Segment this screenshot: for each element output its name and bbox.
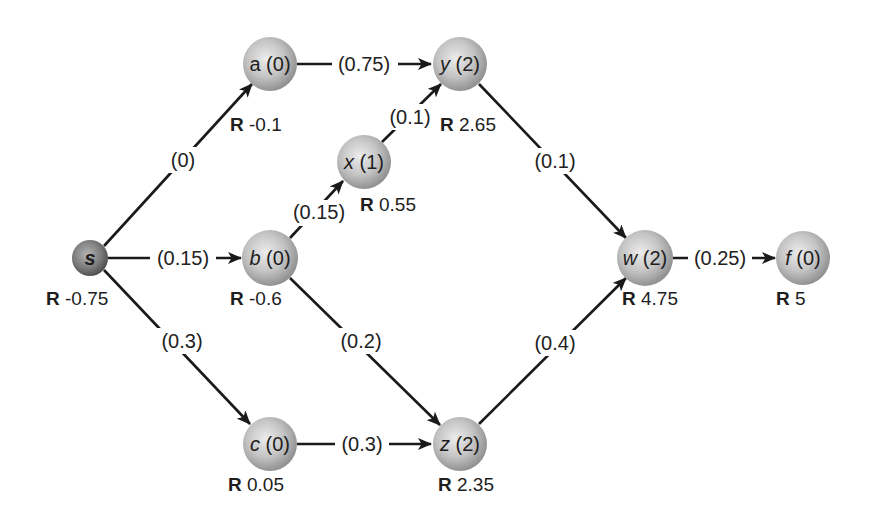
r-key: R — [440, 114, 454, 135]
node-name: s — [84, 247, 95, 269]
edge-s-b: (0.15) — [108, 245, 241, 271]
r-value: 4.75 — [641, 288, 678, 309]
edge-label: (0.15) — [157, 247, 209, 269]
r-value: 5 — [795, 288, 806, 309]
node-s: s R -0.75 — [46, 240, 108, 309]
edge-b-x: (0.15) — [288, 181, 352, 238]
r-key: R — [622, 288, 636, 309]
node-f: f (0) R 5 — [776, 231, 830, 309]
edge-s-a: (0) — [104, 84, 252, 246]
edge-x-y: (0.1) — [382, 84, 441, 142]
node-name: f — [785, 247, 793, 269]
node-label: z (2) — [439, 433, 480, 455]
node-label: y (2) — [438, 53, 480, 75]
node-value: (0) — [796, 247, 820, 269]
edge-label: (0.3) — [341, 433, 382, 455]
r-value: 0.55 — [379, 194, 416, 215]
node-r-value: R 2.65 — [440, 114, 496, 135]
r-key: R — [230, 114, 244, 135]
edge-s-c: (0.3) — [104, 270, 250, 424]
r-key: R — [776, 288, 790, 309]
node-a: a (0) R -0.1 — [230, 37, 297, 135]
node-value: (0) — [266, 53, 290, 75]
node-r-value: R 5 — [776, 288, 806, 309]
node-y: y (2) R 2.65 — [433, 37, 496, 135]
edge-label: (0.1) — [389, 106, 430, 128]
node-r-value: R 4.75 — [622, 288, 678, 309]
node-value: (2) — [456, 53, 480, 75]
edge-label: (0.1) — [534, 150, 575, 172]
r-key: R — [230, 288, 244, 309]
edge-c-z: (0.3) — [297, 431, 431, 457]
node-name: a — [249, 53, 261, 75]
node-name: b — [249, 247, 260, 269]
r-key: R — [360, 194, 374, 215]
node-label: s — [84, 247, 95, 269]
node-b: b (0) R -0.6 — [230, 230, 298, 309]
edge-label: (0.2) — [340, 330, 381, 352]
r-value: -0.6 — [249, 288, 282, 309]
r-key: R — [228, 474, 242, 495]
node-value: (2) — [456, 433, 480, 455]
node-value: (0) — [266, 433, 290, 455]
node-value: (0) — [266, 247, 290, 269]
edge-y-w: (0.1) — [479, 84, 626, 238]
node-label: b (0) — [249, 247, 290, 269]
node-r-value: R 0.55 — [360, 194, 416, 215]
edge-label: (0.25) — [694, 247, 746, 269]
node-label: w (2) — [623, 247, 667, 269]
node-w: w (2) R 4.75 — [617, 230, 678, 309]
edge-a-y: (0.75) — [297, 51, 431, 77]
node-name: z — [439, 433, 450, 455]
r-key: R — [46, 288, 60, 309]
node-z: z (2) R 2.35 — [433, 417, 494, 495]
edge-label: (0) — [171, 149, 195, 171]
node-r-value: R -0.75 — [46, 288, 108, 309]
node-name: y — [438, 53, 451, 75]
node-label: c (0) — [250, 433, 290, 455]
edge-label: (0.75) — [338, 53, 390, 75]
r-value: -0.75 — [65, 288, 108, 309]
node-name: w — [623, 247, 639, 269]
network-diagram: (0) (0.15) (0.3) (0.75) (0.15) (0.2) (0.… — [0, 0, 871, 529]
r-value: 0.05 — [247, 474, 284, 495]
node-value: (2) — [643, 247, 667, 269]
node-c: c (0) R 0.05 — [228, 417, 297, 495]
node-name: x — [343, 151, 355, 173]
r-value: 2.35 — [457, 474, 494, 495]
node-label: x (1) — [343, 151, 384, 173]
r-value: 2.65 — [459, 114, 496, 135]
edge-label: (0.4) — [534, 332, 575, 354]
node-label: a (0) — [249, 53, 290, 75]
edge-b-z: (0.2) — [290, 278, 440, 425]
node-r-value: R -0.1 — [230, 114, 282, 135]
node-name: c — [250, 433, 260, 455]
node-r-value: R 0.05 — [228, 474, 284, 495]
edge-label: (0.15) — [293, 201, 345, 223]
edge-label: (0.3) — [161, 330, 202, 352]
edge-z-w: (0.4) — [479, 278, 626, 424]
node-value: (1) — [360, 151, 384, 173]
node-r-value: R -0.6 — [230, 288, 282, 309]
edge-w-f: (0.25) — [673, 245, 775, 271]
r-key: R — [438, 474, 452, 495]
node-label: f (0) — [785, 247, 821, 269]
node-r-value: R 2.35 — [438, 474, 494, 495]
r-value: -0.1 — [249, 114, 282, 135]
